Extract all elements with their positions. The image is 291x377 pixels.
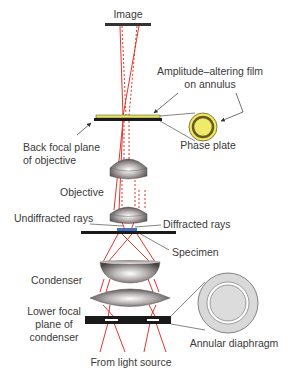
annular-diaphragm-detail <box>171 273 258 333</box>
amplitude-film-label-1: Amplitude–altering film <box>157 65 263 77</box>
rays-lower <box>100 222 166 352</box>
condenser-bottom-lens <box>90 289 170 307</box>
amplitude-film-arrow <box>154 93 178 113</box>
image-label: Image <box>113 8 142 20</box>
back-focal-label-2: of objective <box>23 154 76 166</box>
diffracted-label: Diffracted rays <box>163 218 231 230</box>
amplitude-film-label-2: on annulus <box>184 78 235 90</box>
specimen-label: Specimen <box>172 246 219 258</box>
amplitude-film <box>96 115 160 118</box>
condenser-top-lens <box>100 260 160 283</box>
back-focal-arrow <box>77 123 91 135</box>
objective-label: Objective <box>60 186 104 198</box>
annular-diaphragm-label: Annular diaphragm <box>190 337 279 349</box>
undiffracted-leader <box>90 224 123 226</box>
phase-contrast-diagram: Image <box>0 0 291 377</box>
annular-diaphragm-bar <box>85 316 171 324</box>
objective-lower-lens <box>110 207 147 224</box>
back-focal-label-1: Back focal plane <box>23 141 100 153</box>
back-focal-plane <box>94 118 162 121</box>
image-plane <box>105 23 151 26</box>
lower-focal-label-2: plane of <box>35 318 72 330</box>
phase-plate-label: Phase plate <box>180 139 236 151</box>
light-source-label: From light source <box>90 356 171 368</box>
amplitude-film-to-phase-arrow <box>221 93 243 121</box>
specimen-stage <box>81 231 176 234</box>
undiffracted-label: Undiffracted rays <box>14 212 93 224</box>
lower-focal-label-3: condenser <box>29 331 79 343</box>
rays-upper <box>120 26 139 116</box>
objective-upper-lens <box>110 159 147 179</box>
phase-plate-detail <box>160 113 217 141</box>
specimen <box>117 228 137 231</box>
lower-focal-label-1: Lower focal <box>27 305 81 317</box>
condenser-label: Condenser <box>31 274 83 286</box>
diffracted-leader <box>135 225 161 227</box>
